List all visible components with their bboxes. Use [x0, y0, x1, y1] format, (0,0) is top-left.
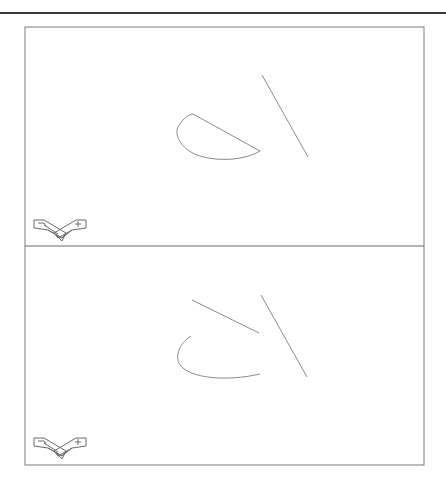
top-long-line[interactable]: [262, 75, 308, 157]
top-viewport[interactable]: [34, 75, 308, 241]
bottom-short-line[interactable]: [192, 300, 259, 333]
top-arc-segment[interactable]: [177, 114, 260, 159]
drawing-svg: [0, 0, 446, 486]
bottom-open-arc[interactable]: [178, 336, 260, 378]
ucs-icon: [34, 220, 86, 241]
ucs-icon: [34, 438, 86, 459]
bottom-viewport[interactable]: [34, 295, 307, 459]
bottom-long-line[interactable]: [261, 295, 307, 377]
drawing-canvas: [0, 0, 446, 486]
